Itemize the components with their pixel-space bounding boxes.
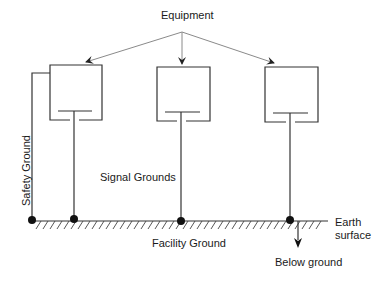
arrow-to-equipment-1: [86, 32, 182, 62]
earth-surface-label-line1: Earth: [335, 216, 361, 229]
signal-grounds-label: Signal Grounds: [100, 171, 176, 184]
equipment-label: Equipment: [161, 9, 214, 22]
safety-ground-label: Safety Ground: [20, 135, 33, 206]
safety-ground-node: [28, 216, 36, 224]
equipment-box-1: [50, 65, 102, 219]
signal-ground-node-2: [177, 217, 185, 225]
equipment-arrows: [86, 32, 274, 64]
below-ground-arrow: [294, 221, 302, 248]
signal-ground-node-3: [286, 216, 294, 224]
equipment-box-3: [265, 67, 318, 220]
facility-ground-label: Facility Ground: [152, 237, 226, 250]
arrow-to-equipment-3: [182, 32, 274, 63]
safety-ground-wire: [32, 73, 50, 219]
earth-surface-label-line2: surface: [335, 229, 371, 242]
below-ground-label: Below ground: [275, 256, 342, 269]
signal-ground-node-1: [70, 215, 78, 223]
equipment-box-2: [157, 67, 210, 220]
